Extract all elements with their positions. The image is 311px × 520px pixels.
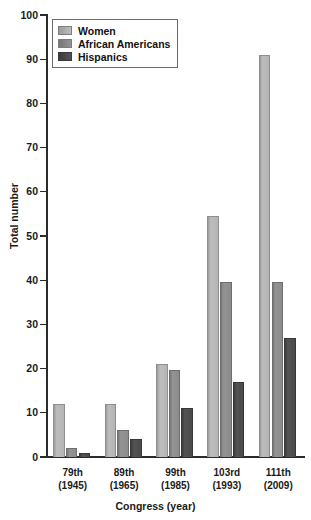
y-axis-tick-label: 100 bbox=[4, 10, 38, 21]
bar-women-89th bbox=[105, 404, 117, 457]
bar-women-99th bbox=[156, 364, 168, 457]
chart-title-fragment bbox=[0, 0, 311, 4]
y-axis-tick-label: 10 bbox=[4, 407, 38, 418]
bar-hispanics-99th bbox=[181, 408, 193, 457]
legend-item-label: African Americans bbox=[78, 38, 170, 50]
y-axis-tick-label: 40 bbox=[4, 275, 38, 286]
bar-women-111th bbox=[259, 55, 271, 457]
bar-african-americans-79th bbox=[66, 448, 78, 457]
bar-women-103rd bbox=[207, 216, 219, 457]
bar-women-79th bbox=[53, 404, 65, 457]
x-axis-title: Congress (year) bbox=[0, 500, 311, 512]
legend-item-label: Women bbox=[78, 25, 116, 37]
legend-item-women: Women bbox=[58, 24, 170, 37]
bar-african-americans-89th bbox=[117, 430, 129, 457]
legend-item-african-americans: African Americans bbox=[58, 37, 170, 50]
plot-area bbox=[46, 15, 304, 457]
y-axis-tick-label: 0 bbox=[4, 452, 38, 463]
legend-swatch-icon bbox=[58, 26, 72, 35]
legend-item-hispanics: Hispanics bbox=[58, 50, 170, 63]
bar-african-americans-99th bbox=[169, 370, 181, 457]
y-axis-tick-label: 20 bbox=[4, 363, 38, 374]
y-axis-tick-label: 30 bbox=[4, 319, 38, 330]
bar-hispanics-111th bbox=[284, 338, 296, 457]
legend: WomenAfrican AmericansHispanics bbox=[52, 19, 178, 68]
y-axis-tick-label: 90 bbox=[4, 54, 38, 65]
bar-hispanics-103rd bbox=[233, 382, 245, 457]
bar-chart: 0102030405060708090100 Total number 79th… bbox=[0, 0, 311, 520]
legend-swatch-icon bbox=[58, 39, 72, 48]
x-axis-group-label: 111th(2009) bbox=[248, 466, 308, 492]
bar-african-americans-103rd bbox=[220, 282, 232, 457]
legend-swatch-icon bbox=[58, 52, 72, 61]
y-axis-title: Total number bbox=[8, 171, 20, 261]
bar-african-americans-111th bbox=[272, 282, 284, 457]
y-axis-tick-label: 70 bbox=[4, 142, 38, 153]
bar-hispanics-79th bbox=[79, 453, 91, 457]
legend-item-label: Hispanics bbox=[78, 51, 128, 63]
bar-hispanics-89th bbox=[130, 439, 142, 457]
y-axis-tick-label: 80 bbox=[4, 98, 38, 109]
